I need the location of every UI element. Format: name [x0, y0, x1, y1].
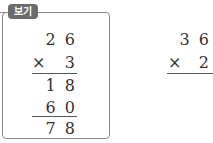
example-multiplier: 3: [65, 54, 77, 72]
example-result: 7 8: [46, 120, 77, 138]
problem-rule: [167, 73, 213, 74]
example-rule-1: [32, 73, 77, 74]
example-partial-1: 1 8: [46, 77, 77, 95]
problem-multiplicand: 3 6: [180, 31, 211, 49]
example-partial-2: 6 0: [46, 99, 77, 117]
example-rule-2: [32, 116, 77, 117]
problem-multiplier: 2: [199, 54, 211, 72]
example-operator: ×: [32, 54, 47, 72]
problem-operator: ×: [168, 54, 183, 72]
example-badge: 보기: [8, 4, 38, 19]
example-multiplicand: 2 6: [46, 31, 77, 49]
